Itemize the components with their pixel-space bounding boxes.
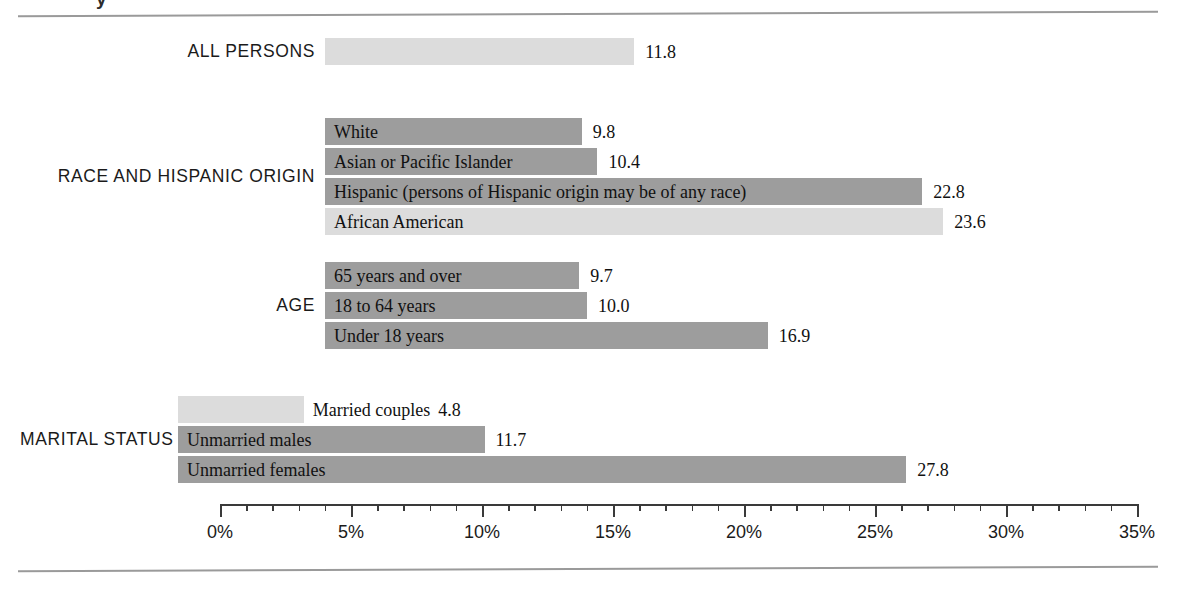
x-axis-minor-tick — [246, 504, 248, 511]
x-axis-minor-tick — [325, 504, 327, 511]
x-axis-minor-tick — [456, 504, 458, 511]
bar: Hispanic (persons of Hispanic origin may… — [325, 178, 922, 205]
x-axis-tick-label: 35% — [1119, 522, 1155, 543]
x-axis-minor-tick — [927, 504, 929, 511]
bar-value-label: 11.7 — [496, 431, 527, 449]
x-axis-tick-label: 10% — [464, 522, 500, 543]
group-label: AGE — [20, 295, 315, 316]
x-axis-tick-label: 25% — [857, 522, 893, 543]
x-axis-minor-tick — [561, 504, 563, 511]
x-axis-minor-tick — [377, 504, 379, 511]
bar: African American — [325, 208, 943, 235]
x-axis-minor-tick — [430, 504, 432, 511]
bar — [325, 38, 634, 65]
bar-label: White — [334, 123, 378, 141]
x-axis-minor-tick — [954, 504, 956, 511]
x-axis-minor-tick — [665, 504, 667, 511]
bar-value-label: 22.8 — [933, 183, 965, 201]
bar-label: 65 years and over — [334, 267, 461, 285]
bar-value-label: 23.6 — [954, 213, 986, 231]
top-divider-rule — [18, 11, 1158, 17]
x-axis-minor-tick — [639, 504, 641, 511]
bar-value-label: 9.7 — [590, 267, 613, 285]
x-axis-minor-tick — [534, 504, 536, 511]
bar-label: 18 to 64 years — [334, 297, 435, 315]
bar-label: Under 18 years — [334, 327, 444, 345]
bar-label: Hispanic (persons of Hispanic origin may… — [334, 183, 746, 201]
bar-label: Asian or Pacific Islander — [334, 153, 512, 171]
x-axis-minor-tick — [299, 504, 301, 511]
bar: Married couples — [178, 396, 304, 423]
x-axis-minor-tick — [823, 504, 825, 511]
x-axis-tick-label: 15% — [595, 522, 631, 543]
group-label: ALL PERSONS — [20, 41, 315, 62]
page-title-fragment: y — [96, 0, 107, 10]
x-axis-minor-tick — [508, 504, 510, 511]
bar: White — [325, 118, 582, 145]
group-label: MARITAL STATUS — [20, 429, 168, 450]
bottom-divider-rule — [18, 566, 1158, 572]
x-axis-minor-tick — [980, 504, 982, 511]
x-axis-minor-tick — [796, 504, 798, 511]
x-axis-minor-tick — [1111, 504, 1113, 511]
poverty-rate-bar-chart: y 11.8White9.8Asian or Pacific Islander1… — [0, 0, 1181, 591]
group-label: RACE AND HISPANIC ORIGIN — [20, 166, 315, 187]
x-axis-minor-tick — [1058, 504, 1060, 511]
x-axis-major-tick — [482, 504, 484, 517]
bar-label: Unmarried males — [187, 431, 311, 449]
bar-value-label: 10.0 — [598, 297, 630, 315]
bar-value-label: 16.9 — [779, 327, 811, 345]
x-axis-major-tick — [1137, 504, 1139, 517]
x-axis-major-tick — [613, 504, 615, 517]
x-axis-tick-label: 0% — [207, 522, 233, 543]
x-axis-major-tick — [220, 504, 222, 517]
x-axis-minor-tick — [1085, 504, 1087, 511]
x-axis-major-tick — [744, 504, 746, 517]
x-axis-minor-tick — [692, 504, 694, 511]
x-axis-tick-label: 30% — [988, 522, 1024, 543]
x-axis-minor-tick — [718, 504, 720, 511]
bar-value-label: 11.8 — [645, 43, 676, 61]
bar-value-label: 10.4 — [608, 153, 640, 171]
bar-value-label: 27.8 — [917, 461, 949, 479]
bar: 18 to 64 years — [325, 292, 587, 319]
bar: Unmarried males — [178, 426, 485, 453]
bar: Asian or Pacific Islander — [325, 148, 597, 175]
bar-label: African American — [334, 213, 463, 231]
x-axis-major-tick — [875, 504, 877, 517]
bar: Unmarried females — [178, 456, 906, 483]
x-axis-tick-label: 20% — [726, 522, 762, 543]
x-axis-major-tick — [1006, 504, 1008, 517]
bar: Under 18 years — [325, 322, 768, 349]
x-axis-minor-tick — [272, 504, 274, 511]
bar-label: Unmarried females — [187, 461, 325, 479]
x-axis-minor-tick — [1032, 504, 1034, 511]
x-axis-tick-label: 5% — [338, 522, 364, 543]
x-axis-major-tick — [351, 504, 353, 517]
bar-value-label: 4.8 — [438, 401, 461, 419]
x-axis-minor-tick — [901, 504, 903, 511]
bar-value-label: 9.8 — [593, 123, 616, 141]
x-axis-minor-tick — [849, 504, 851, 511]
bar: 65 years and over — [325, 262, 579, 289]
x-axis-line — [220, 504, 1137, 506]
bar-label: Married couples — [313, 401, 430, 419]
x-axis-minor-tick — [770, 504, 772, 511]
x-axis-minor-tick — [403, 504, 405, 511]
x-axis-minor-tick — [587, 504, 589, 511]
